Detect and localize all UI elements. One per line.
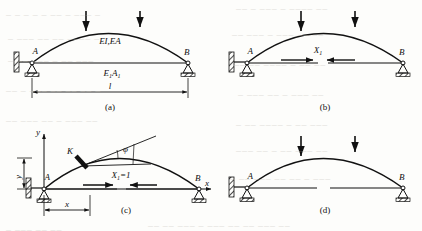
ghost-text-line-1: ── ─ ─── ─ ──── ── <box>236 6 328 13</box>
ghost-text-line-8: ── ─── ── ─ ─── ── <box>6 118 98 125</box>
figure-root: ─ ─ ─ ─ ─ ── ─ ─── ─── ─ ─── ─ ──── ─── … <box>0 0 422 231</box>
label-support-d-right: B <box>399 172 405 182</box>
horizontal-ref-line-c <box>82 164 151 166</box>
label-arch-rib-a: EI,EA <box>98 36 121 46</box>
panel-c: y x K φ X1=1 <box>13 127 211 216</box>
arch-rib-d <box>247 159 403 189</box>
label-span-a: l <box>109 81 112 91</box>
ghost-text-line-3: ── ─── ─ ─── ── ── <box>232 32 324 39</box>
ghost-text-line-2: ─ ─── ── ── ──── ─ <box>8 36 100 43</box>
ghost-text-line-5: ── ── ──── ─ ── ── <box>234 62 326 69</box>
label-redundant-force-b: X1 <box>313 45 323 56</box>
angle-tick-c <box>133 144 134 164</box>
ghost-text-line-4: ─ ── ─── ─ ── ─── <box>8 58 94 65</box>
ghost-text-line-13: ─ ─── ── ── <box>6 227 63 231</box>
label-support-b-left: A <box>247 46 254 56</box>
ghost-text-line-9: ─ ── ──── ─ ── ─── <box>236 122 328 129</box>
ghost-text-line-12: ── ── ─── ─ ─── ── ── ─── ── <box>148 223 291 230</box>
dimension-abscissa-c: x <box>44 195 90 216</box>
label-support-b-right: B <box>399 47 405 57</box>
caption-d: (d) <box>320 205 331 215</box>
label-axis-y-c: y <box>35 127 40 137</box>
label-support-a-left: A <box>32 46 39 56</box>
label-axis-x-c: x <box>204 178 209 188</box>
label-tie-rod-a: E1A1 <box>103 68 121 79</box>
label-abscissa-c: x <box>64 199 69 209</box>
caption-a: (a) <box>105 102 115 112</box>
unit-force-c: X1=1 <box>83 170 157 185</box>
label-support-c-left: A <box>44 172 51 182</box>
label-unit-force-c: X1=1 <box>110 170 130 181</box>
label-support-c-right: B <box>195 173 201 183</box>
ghost-text-line-11: ─ ── ─── ── ── ─ ─── <box>230 176 331 183</box>
label-angle-phi-c: φ <box>123 144 128 154</box>
caption-b: (b) <box>320 102 331 112</box>
label-support-a-right: B <box>184 47 190 57</box>
redundant-force-b: X1 <box>281 45 355 60</box>
label-ordinate-c: y <box>13 175 23 180</box>
ghost-text-line-6: ── ─ ─── ── ── ── ─ <box>6 88 101 95</box>
ghost-text-line-7: ─ ─── ── ─ ─── ── <box>238 92 324 99</box>
label-section-k: K <box>66 146 74 156</box>
diagram-canvas: A B EI,EA E1A1 l (a) <box>0 0 422 231</box>
ghost-text-line-0: ─ ─ ─ ─ ─ ── ─ ─── ─ <box>6 12 101 19</box>
caption-c: (c) <box>121 205 131 215</box>
ghost-text-line-10: ─── ── ─ ── ─── ── <box>236 148 328 155</box>
